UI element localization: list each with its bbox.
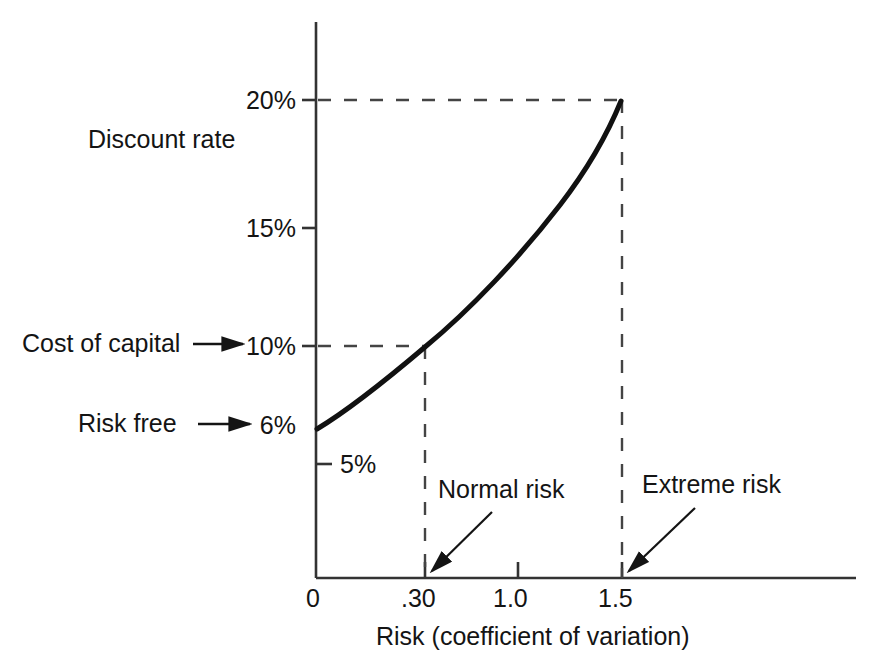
- discount-rate-curve: [317, 101, 621, 429]
- cost-of-capital-label: Cost of capital: [22, 331, 180, 356]
- risk-discount-rate-chart: Discount rate 20% 15% 10% 6% 5% Cost of …: [0, 0, 880, 663]
- y-tick-label-5: 5%: [340, 452, 376, 477]
- y-tick-label-6: 6%: [244, 413, 296, 438]
- x-tick-label-0: 0: [306, 586, 320, 611]
- x-tick-label-10: 1.0: [493, 586, 528, 611]
- x-tick-label-030: .30: [401, 586, 436, 611]
- extreme-risk-arrow: [629, 508, 695, 571]
- extreme-risk-label: Extreme risk: [642, 472, 781, 497]
- y-tick-label-20: 20%: [234, 88, 296, 113]
- x-axis-title: Risk (coefficient of variation): [376, 624, 690, 649]
- y-tick-label-15: 15%: [234, 216, 296, 241]
- y-tick-label-10: 10%: [234, 334, 296, 359]
- risk-free-label: Risk free: [78, 411, 177, 436]
- x-tick-label-15: 1.5: [598, 586, 633, 611]
- y-axis-title: Discount rate: [88, 127, 235, 152]
- normal-risk-arrow: [432, 512, 492, 571]
- normal-risk-label: Normal risk: [438, 477, 564, 502]
